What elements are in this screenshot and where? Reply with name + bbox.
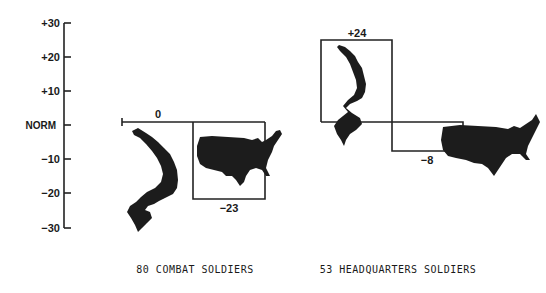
group-combat: 0 −23 xyxy=(122,108,282,232)
tick-label: +30 xyxy=(41,17,60,29)
chart-canvas: +30 +20 +10 NORM −10 −20 −30 0 −23 +24 −… xyxy=(0,0,546,293)
usa-map-icon xyxy=(441,114,540,176)
tick-label: −20 xyxy=(41,187,60,199)
group-headquarters: +24 −8 xyxy=(321,27,540,176)
caption-combat: 80 COMBAT SOLDIERS xyxy=(136,264,253,275)
combat-us-value: −23 xyxy=(220,202,239,214)
vietnam-map-icon xyxy=(127,128,178,232)
tick-label: +10 xyxy=(41,85,60,97)
hq-us-value: −8 xyxy=(421,154,434,166)
combat-vietnam-value: 0 xyxy=(155,108,161,120)
vietnam-map-icon xyxy=(334,45,366,146)
tick-label: +20 xyxy=(41,51,60,63)
tick-label: −10 xyxy=(41,153,60,165)
tick-label-norm: NORM xyxy=(25,120,56,131)
tick-label: −30 xyxy=(41,222,60,234)
y-axis: +30 +20 +10 NORM −10 −20 −30 xyxy=(25,17,71,234)
usa-map-icon xyxy=(197,130,282,186)
caption-headquarters: 53 HEADQUARTERS SOLDIERS xyxy=(320,264,477,275)
hq-vietnam-value: +24 xyxy=(348,27,368,39)
